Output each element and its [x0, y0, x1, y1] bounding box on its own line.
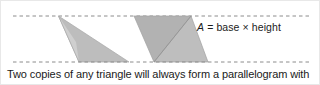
formula-expression: = base × height — [204, 21, 281, 33]
geometry-figure: A = base × height Two copies of any tria… — [0, 0, 320, 85]
figure-caption: Two copies of any triangle will always f… — [7, 67, 319, 81]
area-formula-label: A = base × height — [197, 21, 281, 34]
